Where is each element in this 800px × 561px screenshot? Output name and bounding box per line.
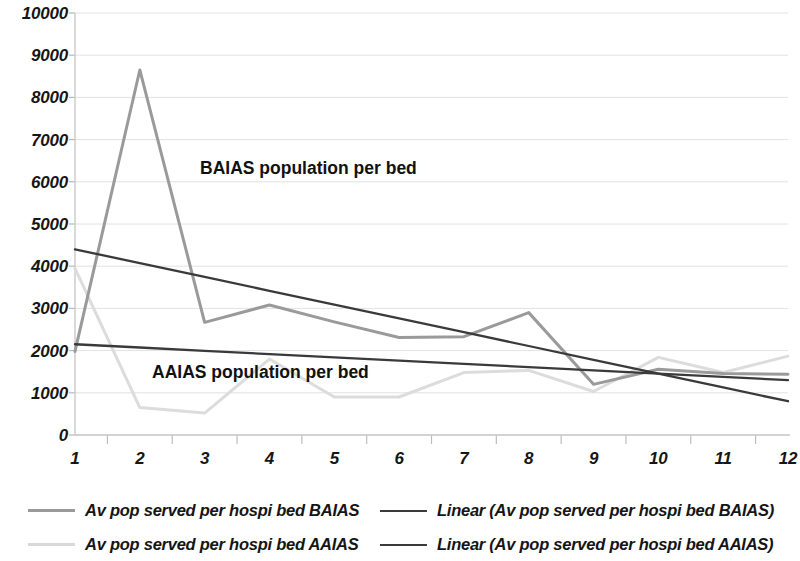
legend-swatch-trendline-aaias [380, 544, 427, 546]
annotation-baias-population-per-bed: BAIAS population per bed [200, 160, 417, 178]
x-axis-tick-label: 9 [564, 450, 624, 467]
legend-item-trendline-baias[interactable]: Linear (Av pop served per hospi bed BAIA… [380, 494, 800, 527]
legend-item-series-aaias[interactable]: Av pop served per hospi bed AAIAS [0, 528, 380, 561]
x-axis-tick-label: 3 [175, 450, 235, 467]
x-axis-tick-label: 11 [693, 450, 753, 467]
legend-label-series-baias: Av pop served per hospi bed BAIAS [85, 501, 359, 520]
legend-swatch-trendline-baias [380, 510, 427, 512]
x-axis-labels: 123456789101112 [0, 0, 800, 561]
legend-swatch-series-baias [28, 509, 75, 512]
x-axis-tick-label: 10 [628, 450, 688, 467]
legend-label-trendline-aaias: Linear (Av pop served per hospi bed AAIA… [437, 535, 773, 554]
x-axis-tick-label: 4 [239, 450, 299, 467]
x-axis-tick-label: 8 [499, 450, 559, 467]
chart-container: 0100020003000400050006000700080009000100… [0, 0, 800, 561]
x-axis-tick-label: 12 [758, 450, 800, 467]
x-axis-tick-label: 6 [369, 450, 429, 467]
chart-legend: Av pop served per hospi bed BAIAS Linear… [0, 494, 800, 561]
legend-item-series-baias[interactable]: Av pop served per hospi bed BAIAS [0, 494, 380, 527]
legend-item-trendline-aaias[interactable]: Linear (Av pop served per hospi bed AAIA… [380, 528, 800, 561]
x-axis-tick-label: 5 [304, 450, 364, 467]
legend-label-trendline-baias: Linear (Av pop served per hospi bed BAIA… [437, 501, 774, 520]
legend-row: Av pop served per hospi bed AAIAS Linear… [0, 528, 800, 561]
legend-label-series-aaias: Av pop served per hospi bed AAIAS [85, 535, 359, 554]
x-axis-tick-label: 1 [45, 450, 105, 467]
legend-swatch-series-aaias [28, 543, 75, 546]
x-axis-tick-label: 7 [434, 450, 494, 467]
legend-row: Av pop served per hospi bed BAIAS Linear… [0, 494, 800, 527]
annotation-aaias-population-per-bed: AAIAS population per bed [152, 364, 369, 382]
x-axis-tick-label: 2 [110, 450, 170, 467]
